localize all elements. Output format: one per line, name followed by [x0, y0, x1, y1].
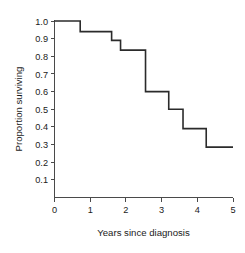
x-tick-label: 4	[195, 205, 200, 215]
y-tick-label: 0.7	[35, 70, 48, 80]
y-tick-label: 0.9	[35, 34, 48, 44]
survival-step-curve	[55, 21, 234, 147]
y-tick-label: 0.4	[35, 122, 48, 132]
y-tick-label: 0.2	[35, 158, 48, 168]
y-tick-label: 1.0	[35, 17, 48, 27]
y-tick-label: 0.1	[35, 175, 48, 185]
x-tick-label: 1	[88, 205, 93, 215]
x-axis-tick-marks	[55, 198, 234, 202]
y-tick-label: 0.3	[35, 140, 48, 150]
x-tick-label: 5	[230, 205, 235, 215]
y-axis-tick-labels: 1.0 0.9 0.8 0.7 0.6 0.5 0.4 0.3 0.2 0.1	[35, 17, 48, 186]
x-tick-label: 2	[123, 205, 128, 215]
y-tick-label: 0.6	[35, 87, 48, 97]
chart-canvas: 1.0 0.9 0.8 0.7 0.6 0.5 0.4 0.3 0.2 0.1	[0, 0, 245, 253]
y-tick-label: 0.5	[35, 105, 48, 115]
x-tick-label: 3	[159, 205, 164, 215]
y-tick-label: 0.8	[35, 52, 48, 62]
y-axis-tick-marks	[51, 21, 55, 180]
x-tick-label: 0	[52, 205, 57, 215]
y-axis-title: Proportion surviving	[13, 67, 24, 152]
x-axis-title: Years since diagnosis	[97, 227, 190, 238]
survival-chart-figure: 1.0 0.9 0.8 0.7 0.6 0.5 0.4 0.3 0.2 0.1	[0, 0, 245, 253]
x-axis-tick-labels: 0 1 2 3 4 5	[52, 205, 236, 215]
